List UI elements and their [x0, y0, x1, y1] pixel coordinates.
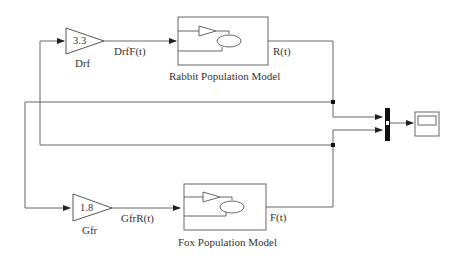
diagram-canvas: [0, 0, 459, 258]
subsystem-rabbit[interactable]: [178, 17, 268, 65]
mux-block[interactable]: [385, 108, 390, 141]
gain-value-gfr: 1.8: [80, 203, 93, 214]
gain-name-gfr: Gfr: [82, 225, 97, 236]
signal-label-gfrr: GfrR(t): [121, 213, 154, 224]
signal-label-f: F(t): [270, 212, 287, 223]
junction-r: [331, 100, 335, 104]
subsystem-label-fox: Fox Population Model: [178, 237, 277, 248]
signal-label-drff: DrfF(t): [114, 46, 146, 57]
scope-block[interactable]: [415, 112, 439, 136]
junction-f: [331, 143, 335, 147]
signal-line-f-to-drf[interactable]: [40, 41, 64, 145]
signal-branch-r[interactable]: [25, 102, 333, 208]
subsystem-label-rabbit: Rabbit Population Model: [169, 71, 280, 82]
gain-value-drf: 3.3: [73, 36, 86, 47]
gain-name-drf: Drf: [75, 58, 90, 69]
signal-label-r: R(t): [273, 46, 291, 57]
subsystem-fox[interactable]: [184, 184, 266, 230]
